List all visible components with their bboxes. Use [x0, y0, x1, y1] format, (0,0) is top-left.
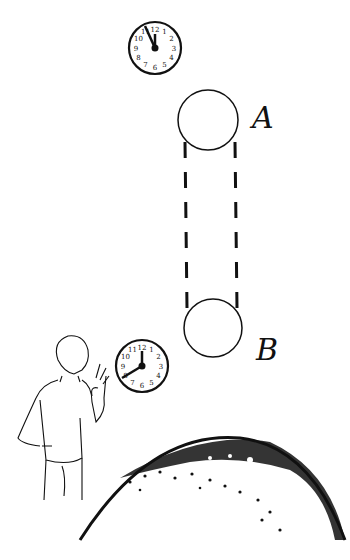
- dashed-line-right: [235, 142, 237, 308]
- person-figure: [18, 336, 109, 500]
- earth-surface: [80, 437, 345, 540]
- clock-numeral: 9: [134, 45, 138, 53]
- clock-numeral: 2: [169, 35, 173, 43]
- clock-numeral: 2: [156, 353, 160, 361]
- clock-numeral: 12: [151, 26, 160, 34]
- dashed-line-left: [185, 142, 187, 308]
- clock-numeral: 1: [149, 346, 153, 354]
- clock-numeral: 3: [159, 363, 163, 371]
- clock-numeral: 10: [134, 35, 143, 43]
- clock-numeral: 8: [136, 54, 140, 62]
- top-clock-icon: 121234567891011: [129, 22, 181, 74]
- clock-numeral: 10: [121, 353, 130, 361]
- clock-numeral: 9: [121, 363, 125, 371]
- clock-numeral: 6: [140, 382, 145, 390]
- bottom-clock-icon: 121234567891011: [116, 340, 168, 392]
- illustration-canvas: 121234567891011 121234567891011: [0, 0, 350, 560]
- sphere-b: [184, 299, 242, 357]
- clock-numeral: 7: [143, 61, 147, 69]
- clock-numeral: 5: [162, 61, 166, 69]
- clock-numeral: 12: [138, 344, 147, 352]
- clock-numeral: 3: [172, 45, 176, 53]
- clock-numeral: 5: [149, 379, 153, 387]
- clock-numeral: 4: [169, 54, 174, 62]
- label-a: A: [252, 100, 274, 135]
- clock-numeral: 4: [156, 372, 161, 380]
- sphere-a: [178, 90, 238, 150]
- clock-numeral: 7: [130, 379, 134, 387]
- line-art: 121234567891011 121234567891011: [0, 0, 350, 560]
- clock-numeral: 11: [128, 346, 137, 354]
- clock-numeral: 6: [153, 64, 158, 72]
- label-b: B: [256, 332, 278, 367]
- clock-numeral: 1: [162, 28, 166, 36]
